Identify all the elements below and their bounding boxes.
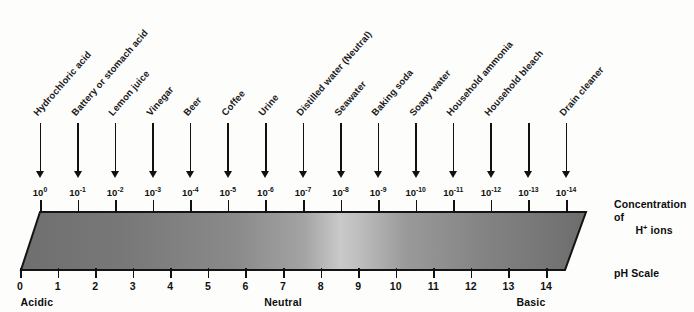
down-arrow-icon [223,123,232,180]
arrow-stem [490,123,492,173]
arrow-head [337,171,345,178]
ph-number: 10 [390,281,402,292]
arrow-head [149,171,157,178]
concentration-tick [378,200,380,213]
concentration-tick [228,200,230,213]
ph-number: 11 [428,281,439,292]
ph-number: 1 [55,281,61,292]
arrow-head [412,171,420,178]
concentration-tick [40,200,42,213]
concentration-tick [416,200,418,213]
concentration-tick [78,200,80,213]
arrow-head [224,171,232,178]
arrow-stem [566,123,568,173]
arrow-stem [115,123,117,173]
zone-label-acidic: Acidic [21,297,54,308]
substance-label: Battery or stomach acid [69,28,149,118]
concentration-label: 10-2 [107,188,124,198]
ph-number: 7 [280,281,286,292]
ph-tick [58,268,60,278]
concentration-tick [453,200,455,213]
concentration-label: 10-9 [370,188,387,198]
ph-tick [95,268,97,278]
arrow-head [524,171,532,178]
arrow-head [36,171,44,178]
concentration-tick [190,200,192,213]
arrow-stem [378,123,380,173]
ph-tick [208,268,210,278]
arrow-stem [40,123,42,173]
concentration-tick [491,200,493,213]
concentration-label: 10-10 [406,188,426,198]
ph-number: 8 [318,281,324,292]
concentration-label: 10-1 [69,188,86,198]
down-arrow-icon [111,123,120,180]
arrow-head [374,171,382,178]
arrow-stem [453,123,455,173]
concentration-caption: Concentration of H+ ions [614,198,694,237]
down-arrow-icon [36,123,45,180]
concentration-tick [265,200,267,213]
arrow-head [111,171,119,178]
ph-number: 4 [167,281,173,292]
ph-tick [358,268,360,278]
substance-label: Drain cleaner [558,65,606,118]
concentration-label: 10-13 [518,188,538,198]
down-arrow-icon [411,123,420,180]
arrow-stem [190,123,192,173]
down-arrow-icon [336,123,345,180]
concentration-label: 10-4 [182,188,199,198]
ph-tick [245,268,247,278]
arrow-stem [528,123,530,173]
ph-tick [133,268,135,278]
down-arrow-icon [148,123,157,180]
ph-number: 6 [243,281,249,292]
substance-label: Vinegar [145,85,175,118]
concentration-label: 100 [33,188,47,198]
concentration-tick [528,200,530,213]
ph-number: 12 [465,281,477,292]
down-arrow-icon [486,123,495,180]
concentration-label: 10-3 [144,188,161,198]
down-arrow-icon [374,123,383,180]
substance-label: Urine [257,93,280,118]
down-arrow-icon [524,123,533,180]
arrow-head [487,171,495,178]
concentration-label: 10-12 [481,188,501,198]
concentration-tick [115,200,117,213]
arrow-head [261,171,269,178]
substance-label: Beer [182,95,203,117]
ph-tick [546,268,548,278]
h-symbol: H [635,224,643,236]
concentration-tick [341,200,343,213]
ph-tick [396,268,398,278]
down-arrow-icon [261,123,270,180]
zone-label-neutral: Neutral [264,297,302,308]
concentration-label: 10-8 [332,188,349,198]
ph-tick [508,268,510,278]
down-arrow-icon [449,123,458,180]
concentration-tick [153,200,155,213]
substance-label: Distilled water (Neutral) [295,29,373,117]
ph-number: 9 [355,281,361,292]
concentration-label: 10-5 [220,188,237,198]
down-arrow-icon [299,123,308,180]
down-arrow-icon [73,123,82,180]
arrow-head [74,171,82,178]
down-arrow-icon [186,123,195,180]
concentration-caption-line1: Concentration of [614,198,694,224]
concentration-label: 10-11 [443,188,463,198]
ph-tick [283,268,285,278]
ph-tick [20,268,22,278]
ph-tick [170,268,172,278]
arrow-stem [227,123,229,173]
arrow-stem [265,123,267,173]
concentration-label: 10-6 [257,188,274,198]
ions-word: ions [648,224,673,236]
ph-tick [433,268,435,278]
ph-number: 14 [540,281,552,292]
arrow-head [299,171,307,178]
zone-label-basic: Basic [516,297,545,308]
ph-tick [321,268,323,278]
gradient-parallelogram [21,212,586,270]
